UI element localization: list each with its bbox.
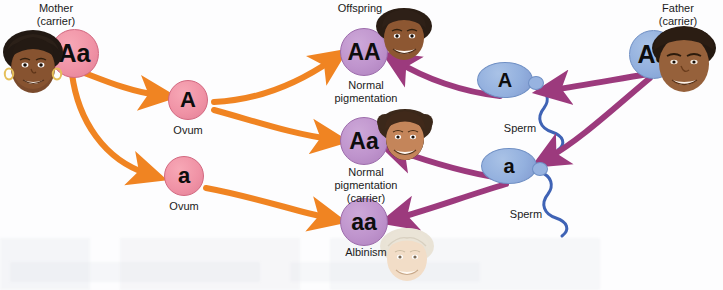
- mother-face: [0, 22, 66, 98]
- offspring-aa-phenotype: Albinism: [316, 246, 416, 259]
- arrow-father-to-sperm-A: [552, 74, 648, 90]
- sperm-a-allele: a: [503, 155, 514, 178]
- ovum-A-allele: A: [180, 87, 196, 113]
- ovum-a-circle[interactable]: a: [164, 156, 204, 196]
- offspring-AA-phenotype: Normal pigmentation: [314, 79, 418, 105]
- offspring-aa-genotype: aa: [351, 209, 377, 236]
- sperm-A-head[interactable]: A: [477, 62, 533, 98]
- ovum-A-circle[interactable]: A: [168, 80, 208, 120]
- offspring-header: Offspring: [320, 2, 400, 15]
- sperm-A-neck: [528, 76, 544, 90]
- ovum-a-label: Ovum: [144, 200, 224, 213]
- sperm-A-allele: A: [498, 69, 512, 92]
- sperm-a-neck: [532, 162, 548, 176]
- ovum-a-allele: a: [178, 163, 190, 189]
- father-face: [648, 22, 720, 102]
- sperm-A-label: Sperm: [490, 122, 550, 135]
- ovum-A-label: Ovum: [148, 124, 228, 137]
- offspring-Aa-face: [376, 106, 434, 168]
- father-label: Father (carrier): [638, 2, 718, 28]
- genetics-diagram: Mother (carrier) Aa A Ovum a Ovum Offspr…: [0, 0, 723, 290]
- sperm-a-label: Sperm: [496, 208, 556, 221]
- offspring-Aa-genotype: Aa: [349, 128, 378, 155]
- mother-label: Mother (carrier): [8, 2, 104, 28]
- sperm-a-head[interactable]: a: [481, 148, 537, 184]
- offspring-Aa-phenotype: Normal pigmentation (carrier): [310, 166, 422, 205]
